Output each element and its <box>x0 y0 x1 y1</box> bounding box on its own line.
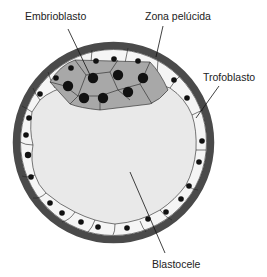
label-zona-pelucida: Zona pelúcida <box>145 11 211 22</box>
blastocyst-diagram <box>0 0 267 277</box>
label-trofoblasto: Trofoblasto <box>203 72 255 83</box>
label-blastocele: Blastocele <box>152 259 200 270</box>
label-embrioblasto: Embrioblasto <box>25 11 86 22</box>
